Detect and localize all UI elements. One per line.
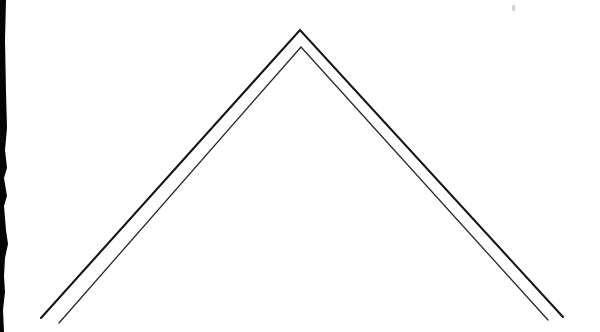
- line-drawing-svg: [0, 0, 600, 332]
- page-background: [0, 0, 600, 332]
- dust-speck: [512, 5, 515, 11]
- scanned-page-canvas: Scanned line drawing of a chevron / gabl…: [0, 0, 600, 332]
